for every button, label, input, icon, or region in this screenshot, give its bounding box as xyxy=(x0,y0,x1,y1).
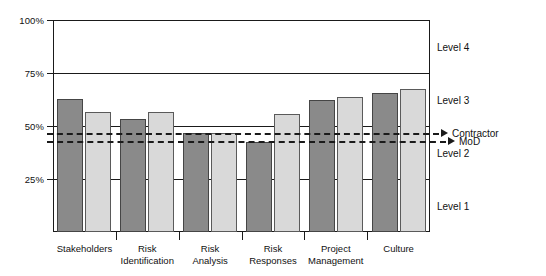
maturity-bar-chart: 100%75%50%25% ContractorMoD Level 4Level… xyxy=(0,0,546,276)
bar-dark-0 xyxy=(57,99,83,232)
x-axis-label-5: Culture xyxy=(383,243,414,255)
x-tick-mark-3 xyxy=(242,232,243,240)
reference-label-mod: MoD xyxy=(459,135,480,146)
reference-arrow-contractor xyxy=(441,129,448,137)
band-label-level-4: Level 4 xyxy=(437,41,469,52)
reference-line-contractor xyxy=(47,133,439,135)
bars-layer xyxy=(53,20,430,232)
x-axis-label-0: Stakeholders xyxy=(57,243,112,255)
x-axis-label-4: Project Management xyxy=(308,243,363,266)
x-tick-mark-5 xyxy=(367,232,368,240)
x-tick-mark-4 xyxy=(304,232,305,240)
reference-arrow-mod xyxy=(448,137,455,145)
band-label-level-2: Level 2 xyxy=(437,147,469,158)
bar-light-0 xyxy=(85,112,111,232)
bar-light-1 xyxy=(148,112,174,232)
x-axis-label-3: Risk Responses xyxy=(249,243,297,266)
y-tick-label-75: 75% xyxy=(0,68,44,79)
x-tick-mark-1 xyxy=(116,232,117,240)
bar-dark-3 xyxy=(246,142,272,232)
bar-light-2 xyxy=(211,133,237,232)
band-label-level-1: Level 1 xyxy=(437,200,469,211)
bar-light-3 xyxy=(274,114,300,232)
bar-dark-4 xyxy=(309,100,335,232)
bar-dark-5 xyxy=(372,93,398,232)
x-tick-mark-2 xyxy=(179,232,180,240)
band-label-level-3: Level 3 xyxy=(437,94,469,105)
y-tick-label-50: 50% xyxy=(0,121,44,132)
y-tick-label-25: 25% xyxy=(0,174,44,185)
x-axis-label-2: Risk Analysis xyxy=(192,243,227,266)
bar-light-4 xyxy=(337,97,363,232)
y-tick-label-100: 100% xyxy=(0,15,44,26)
bar-dark-1 xyxy=(120,119,146,232)
bar-dark-2 xyxy=(183,133,209,232)
reference-line-mod xyxy=(47,141,446,143)
x-axis-label-1: Risk Identification xyxy=(121,243,174,266)
bar-light-5 xyxy=(400,89,426,232)
